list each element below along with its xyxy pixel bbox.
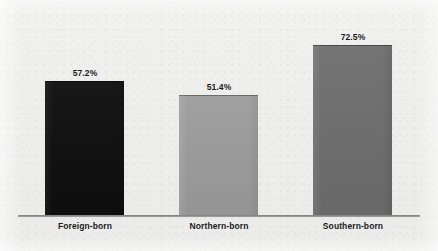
plot-area: 57.2% 51.4% 72.5% [18, 10, 420, 216]
bar-group-foreign-born[interactable]: 57.2% [18, 10, 152, 216]
x-axis-category-labels: Foreign-born Northern-born Southern-born [18, 222, 420, 231]
bar-group-northern-born[interactable]: 51.4% [152, 10, 286, 216]
x-axis-label-foreign-born: Foreign-born [18, 222, 152, 231]
bar-northern-born[interactable] [179, 95, 258, 216]
bar-value-label-southern-born: 72.5% [341, 33, 366, 42]
bar-southern-born[interactable] [313, 45, 392, 216]
x-axis-line [18, 215, 420, 217]
bar-group-southern-born[interactable]: 72.5% [286, 10, 420, 216]
bar-value-label-northern-born: 51.4% [207, 83, 232, 92]
bar-foreign-born[interactable] [45, 81, 124, 216]
x-axis-label-southern-born: Southern-born [286, 222, 420, 231]
bar-chart-figure: 57.2% 51.4% 72.5% Foreign-born Northern-… [0, 0, 438, 251]
bar-value-label-foreign-born: 57.2% [73, 69, 98, 78]
x-axis-label-northern-born: Northern-born [152, 222, 286, 231]
